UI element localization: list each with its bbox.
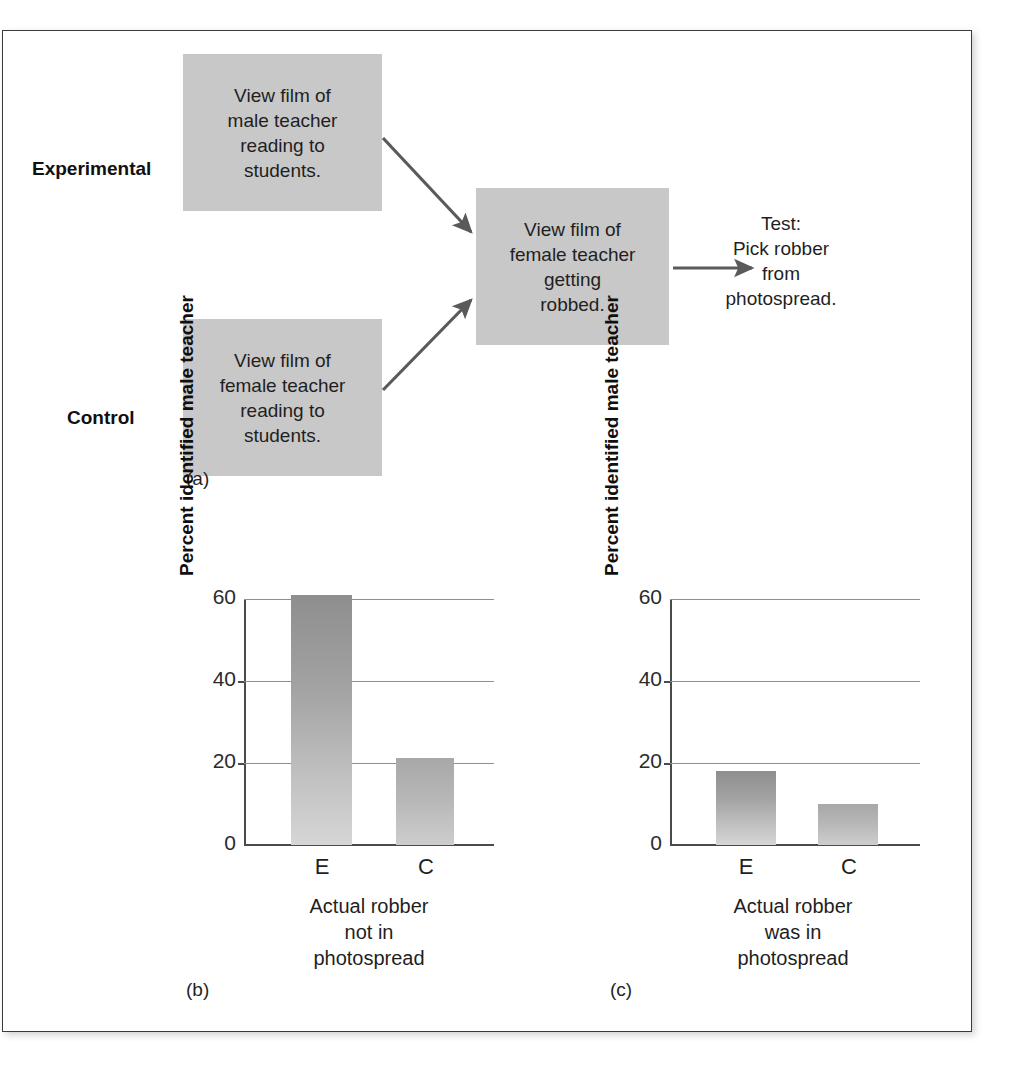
box-experimental-treatment: View film of male teacher reading to stu… [183,54,382,211]
gridline-40-c [670,681,920,682]
condition-label-experimental: Experimental [32,158,151,180]
x-axis-caption-c: Actual robber was in photospread [673,893,913,971]
ytick-mark-20-b [238,763,244,765]
y-axis-line-c [670,599,672,845]
bar-b-E [291,595,352,845]
plot-area-b [244,599,494,845]
panel-letter-c: (c) [610,979,632,1001]
figure-page: Experimental View film of male teacher r… [0,0,1009,1084]
xtick-label-b-C: C [396,854,456,880]
condition-label-control: Control [67,407,135,429]
bar-c-C [818,804,878,845]
figure-frame: Experimental View film of male teacher r… [2,30,972,1032]
x-axis-line-c [670,844,920,846]
ytick-label-40-c: 40 [622,667,662,691]
plot-area-c [670,599,920,845]
ytick-mark-20-c [664,763,670,765]
y-axis-title-c: Percent identified male teacher [601,295,623,576]
ytick-label-20-c: 20 [622,749,662,773]
test-outcome-text: Test: Pick robber from photospread. [681,211,881,311]
gridline-60-b [244,599,494,600]
y-axis-title-b: Percent identified male teacher [176,295,198,576]
xtick-label-c-E: E [716,854,776,880]
ytick-mark-40-b [238,681,244,683]
ytick-label-0-b: 0 [196,831,236,855]
ytick-label-60-c: 60 [622,585,662,609]
panel-letter-b: (b) [186,979,209,1001]
ytick-label-40-b: 40 [196,667,236,691]
x-axis-caption-b: Actual robber not in photospread [249,893,489,971]
box-common-event: View film of female teacher getting robb… [476,188,669,345]
xtick-label-c-C: C [819,854,879,880]
gridline-20-b [244,763,494,764]
ytick-label-0-c: 0 [622,831,662,855]
bar-c-E [716,771,776,845]
gridline-40-b [244,681,494,682]
ytick-label-20-b: 20 [196,749,236,773]
gridline-60-c [670,599,920,600]
x-axis-line-b [244,844,494,846]
ytick-mark-40-c [664,681,670,683]
xtick-label-b-E: E [292,854,352,880]
y-axis-line-b [244,599,246,845]
gridline-20-c [670,763,920,764]
bar-b-C [396,758,454,845]
box-control-treatment: View film of female teacher reading to s… [183,319,382,476]
ytick-label-60-b: 60 [196,585,236,609]
